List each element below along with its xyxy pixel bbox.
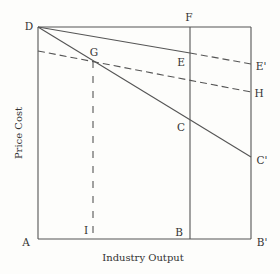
x-axis-title: Industry Output: [102, 252, 184, 263]
diagram-canvas: D F E E' G H C C' I B A B' Industry Outp…: [0, 0, 280, 274]
label-i: I: [84, 224, 88, 236]
label-f: F: [185, 11, 192, 23]
label-g: G: [90, 46, 98, 58]
label-b-prime: B': [257, 236, 268, 248]
line-d-c-prime: [38, 27, 251, 157]
label-c: C: [177, 121, 185, 133]
label-e-prime: E': [256, 60, 267, 72]
label-d: D: [25, 20, 33, 32]
label-b: B: [175, 226, 183, 238]
label-c-prime: C': [257, 154, 268, 166]
line-e-e-prime: [190, 53, 251, 64]
y-axis-title: Price Cost: [13, 107, 24, 159]
dashed-line-g-h: [38, 51, 251, 92]
label-e: E: [177, 56, 185, 68]
industry-cost-diagram: D F E E' G H C C' I B A B' Industry Outp…: [0, 0, 280, 274]
label-h: H: [254, 87, 263, 99]
line-d-e: [38, 27, 190, 53]
label-a: A: [21, 236, 30, 248]
